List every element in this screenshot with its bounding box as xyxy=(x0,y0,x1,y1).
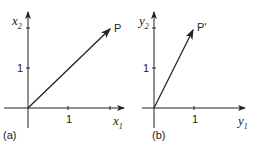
panel-b-axes xyxy=(142,12,245,128)
panel-b-y-tick: 1 xyxy=(143,63,149,74)
panel-a-caption: (a) xyxy=(3,130,16,141)
panel-a-x-tick: 1 xyxy=(66,114,72,125)
panel-b-point-label: P' xyxy=(197,22,206,33)
panel-b-caption: (b) xyxy=(152,130,165,141)
panel-a-x-axis-label: x1 xyxy=(113,114,123,131)
panel-a-y-axis-label: x2 xyxy=(12,14,22,31)
panel-b-x-axis-label: y1 xyxy=(238,114,248,131)
panel-b-y-axis-label: y2 xyxy=(139,14,149,31)
panel-a-point-label: P xyxy=(114,23,121,34)
panel-b-x-tick: 1 xyxy=(192,114,198,125)
diagram-canvas xyxy=(0,0,253,146)
panel-a-y-tick: 1 xyxy=(17,63,23,74)
